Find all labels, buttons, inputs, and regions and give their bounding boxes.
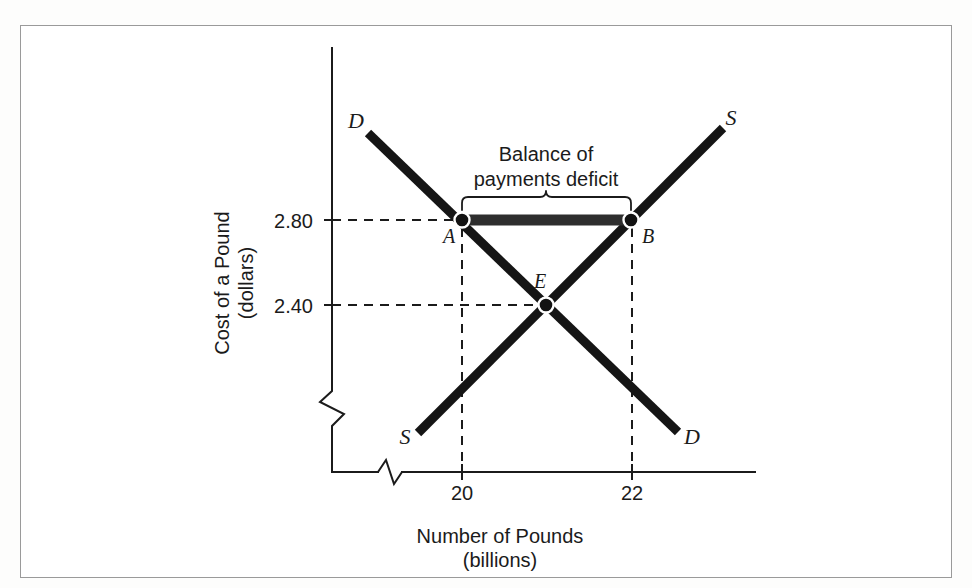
x-axis-title: Number of Pounds	[417, 525, 584, 547]
deficit-annotation-line2: payments deficit	[474, 168, 619, 190]
deficit-brace	[462, 191, 631, 210]
y-tick-label-280: 2.80	[274, 210, 313, 232]
y-axis-title: Cost of a Pound	[211, 211, 233, 354]
x-axis-break-zigzag	[378, 460, 402, 484]
y-axis-subtitle: (dollars)	[235, 247, 257, 319]
y-tick-label-240: 2.40	[274, 295, 313, 317]
point-b-marker	[624, 213, 639, 228]
demand-label-top: D	[347, 108, 364, 133]
x-axis-subtitle: (billions)	[463, 549, 537, 571]
demand-label-bottom: D	[683, 424, 700, 449]
point-e-marker	[539, 298, 554, 313]
point-e-label: E	[533, 270, 546, 292]
y-axis-break-zigzag	[320, 385, 344, 432]
economics-chart: D D S S A B E Balance of payments defici…	[0, 0, 972, 588]
point-b-label: B	[642, 225, 654, 247]
supply-label-bottom: S	[400, 424, 411, 449]
figure-root: D D S S A B E Balance of payments defici…	[0, 0, 972, 588]
x-tick-label-20: 20	[451, 482, 473, 504]
x-tick-label-22: 22	[621, 482, 643, 504]
supply-label-top: S	[726, 105, 737, 130]
point-a-label: A	[441, 225, 456, 247]
deficit-annotation-line1: Balance of	[499, 143, 594, 165]
point-a-marker	[455, 213, 470, 228]
